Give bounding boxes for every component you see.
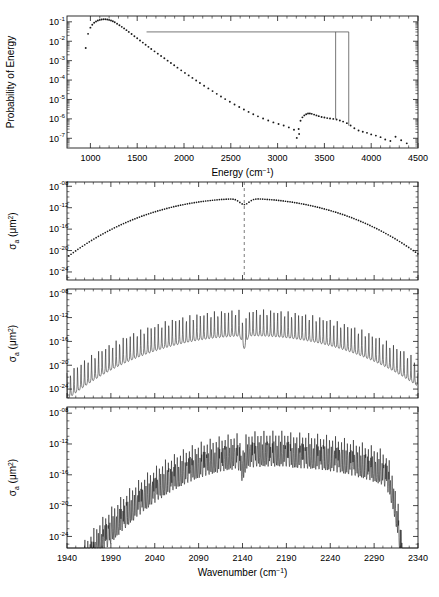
data-point <box>77 248 79 250</box>
data-point <box>68 255 70 257</box>
data-point <box>134 218 136 220</box>
data-point <box>362 222 364 224</box>
data-point <box>203 200 205 202</box>
data-point <box>212 90 214 92</box>
data-point <box>298 128 300 130</box>
data-point <box>112 20 114 22</box>
data-point <box>395 136 397 138</box>
y-tick-label: 10 <box>49 75 59 85</box>
data-point <box>385 233 387 235</box>
data-point <box>253 199 255 201</box>
y-axis-title-close: ) <box>7 459 18 462</box>
data-point <box>223 198 225 200</box>
data-point <box>142 42 144 44</box>
data-point <box>389 140 391 142</box>
data-point <box>72 252 74 254</box>
data-point <box>346 215 348 217</box>
data-point <box>315 114 317 116</box>
data-point <box>177 67 179 69</box>
data-point <box>408 247 410 249</box>
multi-panel-spectrum-figure: 1000150020002500300035004000450010-110-2… <box>0 0 439 597</box>
data-point <box>241 203 243 205</box>
data-point <box>342 121 344 123</box>
y-tick-label-exponent: -7 <box>60 131 66 138</box>
data-point <box>383 231 385 233</box>
data-point <box>195 80 197 82</box>
data-point <box>392 237 394 239</box>
x-tick-label: 2500 <box>221 153 241 163</box>
data-point <box>346 122 348 124</box>
data-point <box>230 198 232 200</box>
data-point <box>330 210 332 212</box>
data-point <box>214 199 216 201</box>
x-tick-label: 2000 <box>174 153 194 163</box>
data-point <box>321 207 323 209</box>
x-tick-label: 3500 <box>314 153 334 163</box>
data-point <box>125 29 127 31</box>
data-point <box>88 241 90 243</box>
y-tick-label: 10 <box>49 313 59 323</box>
data-point <box>95 20 97 22</box>
data-point <box>305 204 307 206</box>
data-point <box>244 204 246 206</box>
data-point <box>93 238 95 240</box>
data-point <box>221 199 223 201</box>
data-point <box>406 142 408 144</box>
y-tick-label: 10 <box>49 337 59 347</box>
data-point <box>75 250 77 252</box>
data-point <box>229 101 231 103</box>
data-point <box>131 33 133 35</box>
data-point <box>145 214 147 216</box>
data-point <box>294 202 296 204</box>
data-point <box>344 214 346 216</box>
data-point <box>70 253 72 255</box>
data-point <box>406 245 408 247</box>
data-point <box>280 200 282 202</box>
data-point <box>293 129 295 131</box>
data-point <box>394 238 396 240</box>
data-point <box>282 200 284 202</box>
series-sigma-a-smoothed <box>68 198 419 257</box>
data-point <box>257 198 259 200</box>
data-point <box>82 245 84 247</box>
data-point <box>189 203 191 205</box>
data-point <box>103 18 105 20</box>
panel-4-y-axis-title: σa (μm2) <box>7 459 20 496</box>
x-tick-label: 1500 <box>127 153 147 163</box>
data-point <box>111 228 113 230</box>
data-point <box>123 223 125 225</box>
panel-1-group: 1000150020002500300035004000450010-110-2… <box>5 15 428 178</box>
data-point <box>86 242 88 244</box>
data-point <box>246 203 248 205</box>
data-point <box>353 218 355 220</box>
data-point <box>205 200 207 202</box>
data-point <box>272 121 274 123</box>
data-point <box>329 118 331 120</box>
data-point <box>148 213 150 215</box>
panel-2-frame <box>67 182 418 280</box>
data-point <box>321 116 323 118</box>
y-tick-label: 10 <box>49 408 59 418</box>
data-point <box>298 133 300 135</box>
data-point <box>376 228 378 230</box>
data-point <box>175 205 177 207</box>
series-sigma-a-line-by-line-dense <box>67 431 418 548</box>
data-point <box>191 202 193 204</box>
data-point <box>248 201 250 203</box>
x-tick-label: 2140 <box>232 553 252 563</box>
x-tick-label: 1000 <box>80 153 100 163</box>
data-point <box>243 109 245 111</box>
data-point <box>104 232 106 234</box>
y-tick-label-exponent: -08 <box>60 287 70 294</box>
panel-1-frame <box>67 16 418 148</box>
data-point <box>300 120 302 122</box>
data-point <box>198 201 200 203</box>
data-point <box>307 113 309 115</box>
data-point <box>412 250 414 252</box>
data-point <box>319 207 321 209</box>
data-point <box>139 216 141 218</box>
data-point <box>102 233 104 235</box>
data-point <box>118 24 120 26</box>
data-point <box>380 230 382 232</box>
data-point <box>228 198 230 200</box>
